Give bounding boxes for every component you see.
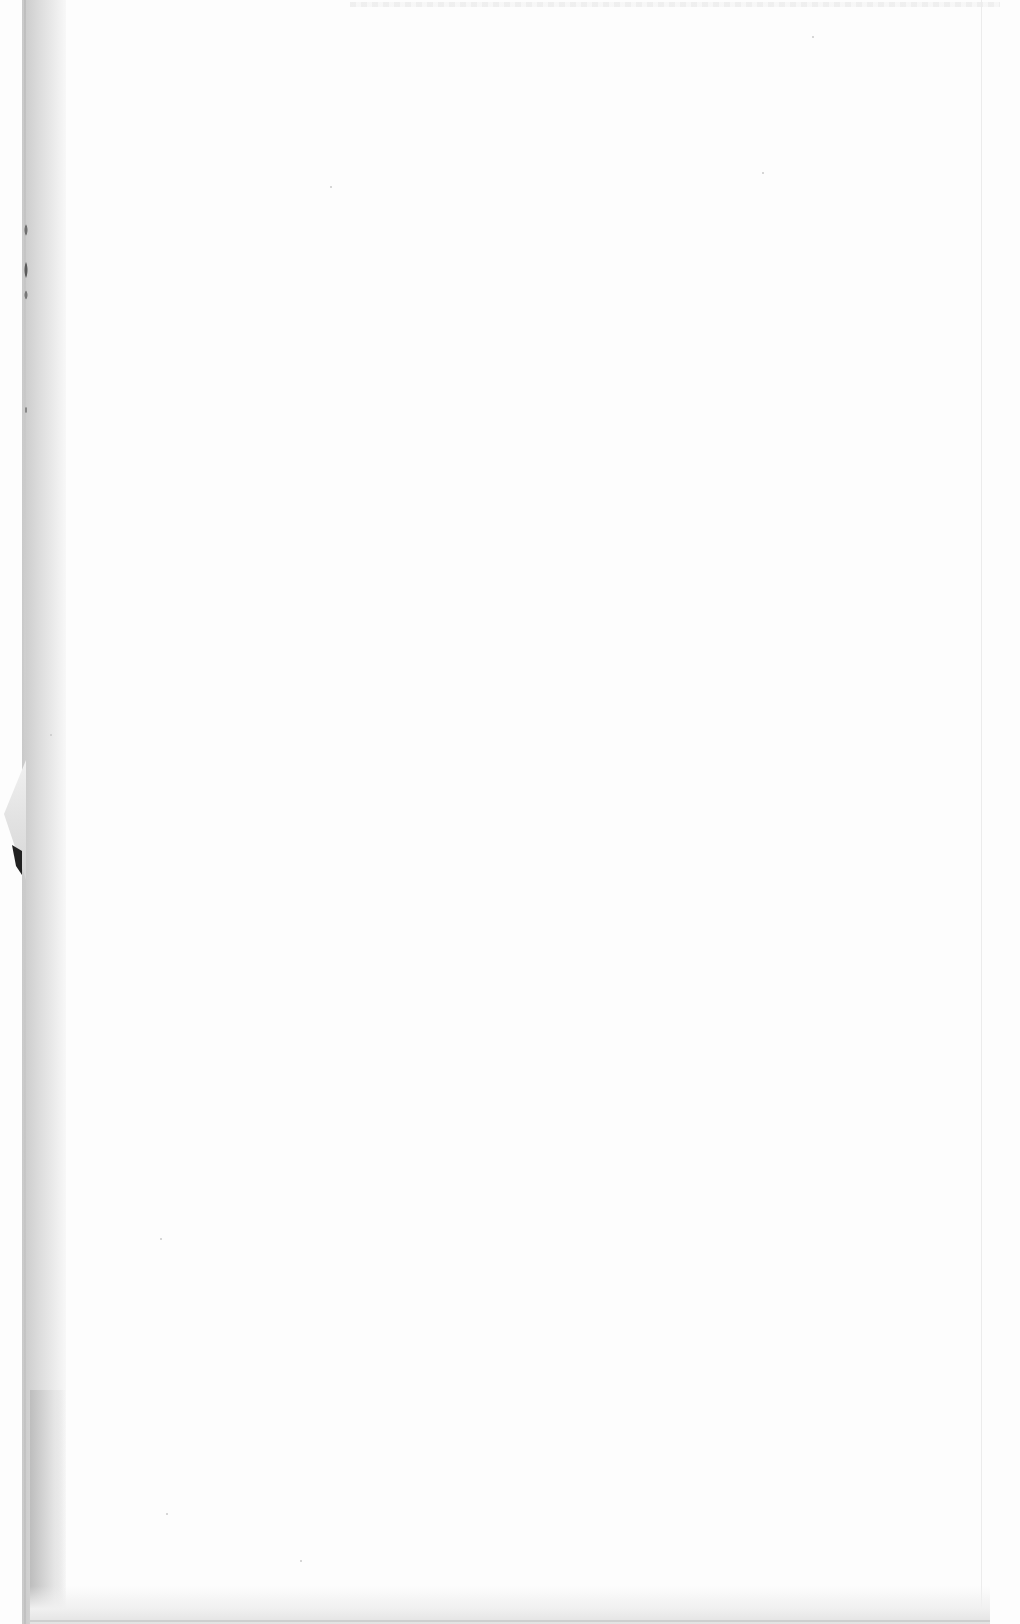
dust-speck [50,734,52,736]
dust-speck [300,1560,302,1562]
dust-speck [812,36,814,38]
torn-notch [4,760,26,880]
scanned-page [0,0,1020,1624]
edge-marks [23,200,29,440]
paper-bottom-edge [30,1586,990,1624]
paper-bottom-line [30,1620,990,1622]
top-scan-texture [350,2,1000,7]
paper-right-edge [981,0,982,1624]
page-body [90,80,930,1540]
